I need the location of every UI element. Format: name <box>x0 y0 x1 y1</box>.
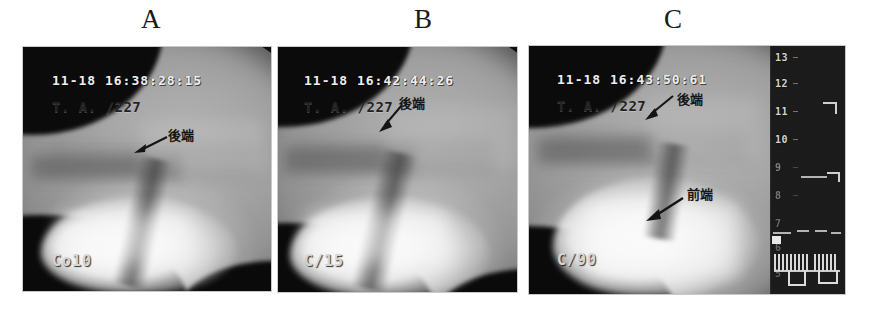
endoscopic-image-panel-a: 11-18 16:38:28:15 T. A. /227 Co10 後端 <box>22 46 272 292</box>
scale-label-11: 11 <box>775 106 788 117</box>
comb-tooth <box>814 254 816 271</box>
figure-container: A B C 11-18 16:38:28:15 T. A. /227 Co10 <box>0 0 894 312</box>
corner-code-a: Co10 <box>52 252 92 270</box>
scale-label-12: 12 <box>775 78 788 89</box>
comb-pulse-box-left <box>788 270 806 286</box>
comb-tooth <box>774 254 776 271</box>
comb-tooth <box>790 254 792 271</box>
corner-code-b: C/15 <box>304 252 344 270</box>
corner-code-c: C/90 <box>557 251 597 269</box>
scale-tick-9 <box>793 167 798 168</box>
panel-letter-a: A <box>141 6 161 33</box>
signal-trace-mid-2 <box>797 230 809 232</box>
scale-tick-8 <box>793 195 798 196</box>
video-timestamp-b: 11-18 16:42:44:26 <box>304 73 454 88</box>
annotation-posterior-end-c: 後端 <box>677 93 703 106</box>
case-id-c: T. A. /227 <box>557 98 646 114</box>
scale-label-7: 7 <box>775 218 782 229</box>
panel-letter-b: B <box>414 6 433 33</box>
comb-tooth <box>798 254 800 271</box>
signal-trace-mid-4 <box>831 232 841 234</box>
waveform-comb <box>774 254 840 288</box>
video-timestamp-a: 11-18 16:38:28:15 <box>52 73 202 88</box>
sidebar-hook-lower <box>827 172 840 182</box>
signal-trace-mid-1 <box>773 232 791 234</box>
case-id-a: T. A. /227 <box>52 99 141 115</box>
scale-tick-10 <box>793 139 798 140</box>
comb-tooth <box>834 254 836 271</box>
comb-tooth <box>822 254 824 271</box>
panel-c-image: 11-18 16:43:50:61 T. A. /227 C/90 後端 前端 … <box>529 46 845 294</box>
panel-a-image: 11-18 16:38:28:15 T. A. /227 Co10 後端 <box>23 47 271 291</box>
video-timestamp-c: 11-18 16:43:50:61 <box>557 72 707 87</box>
comb-tooth <box>802 254 804 271</box>
comb-tooth <box>826 254 828 271</box>
scale-tick-13 <box>793 57 798 58</box>
scale-tick-11 <box>793 111 798 112</box>
annotation-posterior-end-a: 後端 <box>168 129 194 142</box>
comb-tooth <box>778 254 780 271</box>
case-id-b: T. A. /227 <box>304 99 393 115</box>
measurement-sidebar: 13 12 11 10 9 8 7 6 5 <box>770 46 845 294</box>
endoscopic-image-panel-b: 11-18 16:42:44:26 T. A. /227 C/15 後端 <box>277 46 518 293</box>
scale-label-13: 13 <box>775 52 788 63</box>
signal-marker-block <box>772 236 781 244</box>
signal-trace-mid-3 <box>815 230 827 232</box>
sidebar-hook-upper <box>823 102 837 114</box>
comb-tooth <box>818 254 820 271</box>
scale-tick-12 <box>793 83 798 84</box>
scale-label-9: 9 <box>775 162 782 173</box>
signal-trace-upper <box>801 176 827 178</box>
comb-pulse-box-right <box>818 270 838 284</box>
annotation-anterior-end-c: 前端 <box>687 188 713 201</box>
annotation-posterior-end-b: 後端 <box>399 97 425 110</box>
scale-label-8: 8 <box>775 190 782 201</box>
panel-letter-c: C <box>664 6 683 33</box>
scale-label-10: 10 <box>775 134 788 145</box>
comb-tooth <box>794 254 796 271</box>
endoscopic-image-panel-c: 11-18 16:43:50:61 T. A. /227 C/90 後端 前端 … <box>528 45 846 295</box>
panel-b-image: 11-18 16:42:44:26 T. A. /227 C/15 後端 <box>278 47 517 292</box>
comb-tooth <box>806 254 808 271</box>
tissue-shadow-c-1 <box>537 138 657 164</box>
comb-tooth <box>830 254 832 271</box>
comb-tooth <box>786 254 788 271</box>
comb-tooth <box>782 254 784 271</box>
